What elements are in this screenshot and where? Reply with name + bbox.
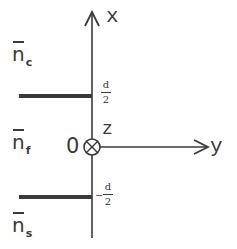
fraction-bar	[103, 194, 113, 195]
index-symbol: n	[12, 130, 25, 154]
overbar	[13, 212, 24, 214]
x-axis-label: x	[106, 6, 119, 27]
index-symbol: n	[12, 213, 25, 237]
overbar	[13, 129, 24, 131]
substrate-subscript: s	[26, 227, 33, 240]
fraction-denominator: 2	[103, 196, 113, 208]
fraction-numerator: d	[103, 181, 113, 193]
bottom-boundary-fraction: d 2	[103, 181, 113, 208]
fraction-bar	[101, 92, 111, 93]
z-into-page-icon	[84, 139, 100, 155]
substrate-index-label: n s	[12, 215, 32, 235]
fraction-denominator: 2	[101, 94, 111, 106]
diagram-canvas	[0, 0, 237, 249]
index-symbol: n	[12, 42, 25, 66]
fraction-numerator: d	[101, 79, 111, 91]
y-axis-label: y	[210, 136, 223, 157]
top-boundary-fraction: d 2	[101, 79, 111, 106]
film-subscript: f	[26, 144, 31, 157]
cover-subscript: c	[26, 56, 33, 69]
overbar	[13, 41, 24, 43]
z-axis-label: z	[102, 120, 113, 138]
film-index-label: n f	[12, 132, 30, 152]
cover-index-label: n c	[12, 44, 32, 64]
origin-label: 0	[66, 136, 79, 157]
